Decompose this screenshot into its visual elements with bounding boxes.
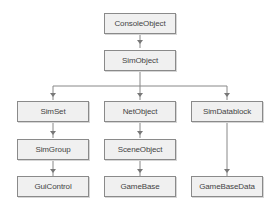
arrowhead-icon: [50, 169, 56, 173]
node-label: GameBase: [120, 182, 159, 191]
node-guicontrol: GuiControl: [17, 176, 89, 197]
class-hierarchy-diagram: ConsoleObject SimObject SimSet NetObject…: [0, 0, 280, 209]
node-label: SimSet: [40, 107, 65, 116]
arrowhead-icon: [137, 40, 143, 44]
node-simdatablock: SimDatablock: [191, 101, 263, 122]
node-simgroup: SimGroup: [17, 139, 89, 160]
arrowhead-icon: [224, 169, 230, 173]
node-label: SimGroup: [35, 145, 70, 154]
node-label: ConsoleObject: [114, 19, 165, 28]
arrowhead-icon: [50, 131, 56, 135]
node-label: GuiControl: [34, 182, 71, 191]
arrowhead-icon: [137, 169, 143, 173]
node-sceneobject: SceneObject: [104, 139, 176, 160]
node-netobject: NetObject: [104, 101, 176, 122]
arrowhead-icon: [50, 93, 56, 97]
node-gamebasedata: GameBaseData: [191, 176, 263, 197]
node-label: SimObject: [122, 56, 158, 65]
arrowhead-icon: [224, 93, 230, 97]
node-label: GameBaseData: [199, 182, 255, 191]
node-label: SceneObject: [118, 145, 163, 154]
node-consoleobject: ConsoleObject: [104, 13, 176, 34]
node-label: SimDatablock: [203, 107, 251, 116]
node-gamebase: GameBase: [104, 176, 176, 197]
node-simset: SimSet: [17, 101, 89, 122]
arrowhead-icon: [137, 93, 143, 97]
arrowhead-icon: [137, 131, 143, 135]
node-simobject: SimObject: [104, 50, 176, 71]
node-label: NetObject: [123, 107, 158, 116]
